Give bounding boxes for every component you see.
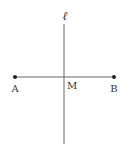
- line-l-label: ℓ: [63, 9, 68, 23]
- point-a-dot: [13, 75, 17, 79]
- point-b-dot: [112, 75, 116, 79]
- point-m-label: M: [67, 80, 77, 91]
- point-a-label: A: [10, 83, 19, 94]
- perpendicular-bisector-diagram: ℓ A M B: [0, 0, 125, 145]
- point-b-label: B: [110, 83, 117, 94]
